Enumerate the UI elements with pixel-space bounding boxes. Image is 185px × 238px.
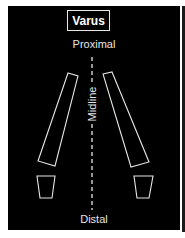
- left-long-segment: [38, 73, 78, 166]
- diagram-shapes: [0, 0, 185, 238]
- left-foot-block: [37, 176, 55, 198]
- right-long-segment: [103, 72, 149, 167]
- right-foot-block: [134, 176, 153, 198]
